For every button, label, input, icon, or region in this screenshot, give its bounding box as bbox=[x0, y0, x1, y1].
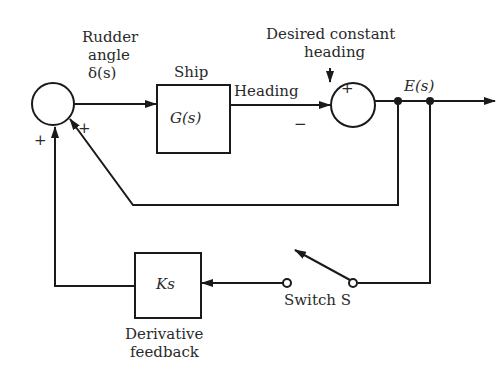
switch-arm[interactable] bbox=[295, 250, 350, 280]
error-label: E(s) bbox=[404, 78, 434, 95]
left-summer-right-sign: + bbox=[78, 120, 91, 137]
left-summing-junction bbox=[32, 83, 74, 125]
plant-label: G(s) bbox=[170, 110, 201, 127]
branch-point-2 bbox=[426, 97, 434, 105]
rudder-label-3: δ(s) bbox=[88, 65, 116, 82]
controller-label: Ks bbox=[156, 276, 175, 293]
desired-label-1: Desired constant bbox=[266, 26, 395, 43]
desired-label-2: heading bbox=[304, 44, 365, 61]
rudder-label-1: Rudder bbox=[82, 29, 138, 46]
ship-label: Ship bbox=[174, 64, 208, 81]
branch-point-1 bbox=[394, 97, 402, 105]
block-diagram bbox=[0, 0, 501, 377]
right-summer-left-sign: − bbox=[294, 116, 307, 133]
derivative-feedback-line bbox=[55, 127, 135, 286]
switch-feed-line bbox=[358, 101, 430, 283]
heading-label: Heading bbox=[234, 83, 299, 100]
right-summer-top-sign: + bbox=[341, 80, 354, 97]
rudder-label-2: angle bbox=[88, 47, 130, 64]
switch-label: Switch S bbox=[284, 292, 351, 309]
switch-contact-right bbox=[349, 279, 357, 287]
heading-feedback-line bbox=[70, 101, 398, 205]
derivative-label-2: feedback bbox=[130, 344, 199, 361]
switch-contact-left bbox=[283, 279, 291, 287]
left-summer-bottom-sign: + bbox=[34, 132, 47, 149]
derivative-label-1: Derivative bbox=[125, 326, 203, 343]
